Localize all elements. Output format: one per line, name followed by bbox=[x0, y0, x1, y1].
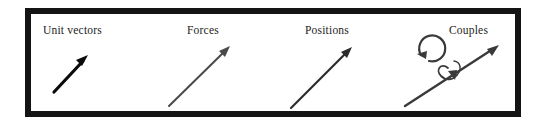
position-vector-arrow bbox=[291, 47, 352, 108]
arrow-shaft bbox=[405, 49, 493, 106]
vector-types-figure: Unit vectors Forces Positions bbox=[0, 0, 536, 125]
force-vector-arrow-art bbox=[151, 14, 271, 111]
position-vector-arrow-art bbox=[271, 14, 391, 111]
arrowhead bbox=[487, 45, 499, 56]
panel-unit-vectors: Unit vectors bbox=[31, 14, 151, 111]
circular-arrow-arc bbox=[419, 35, 445, 61]
unit-vector-arrow bbox=[54, 55, 88, 92]
arrow-shaft bbox=[291, 52, 347, 108]
unit-vector-arrow-art bbox=[31, 14, 151, 111]
arrow-shaft bbox=[54, 61, 83, 92]
arrow-shaft bbox=[169, 51, 225, 106]
circular-arrow-head bbox=[417, 51, 427, 59]
couple-vector-art bbox=[391, 14, 515, 111]
force-vector-arrow bbox=[169, 46, 230, 106]
panel-forces: Forces bbox=[151, 14, 271, 111]
circular-arrow-icon bbox=[417, 35, 445, 61]
panel-positions: Positions bbox=[271, 14, 391, 111]
panel-couples: Couples bbox=[391, 14, 515, 111]
figure-frame: Unit vectors Forces Positions bbox=[25, 8, 521, 117]
